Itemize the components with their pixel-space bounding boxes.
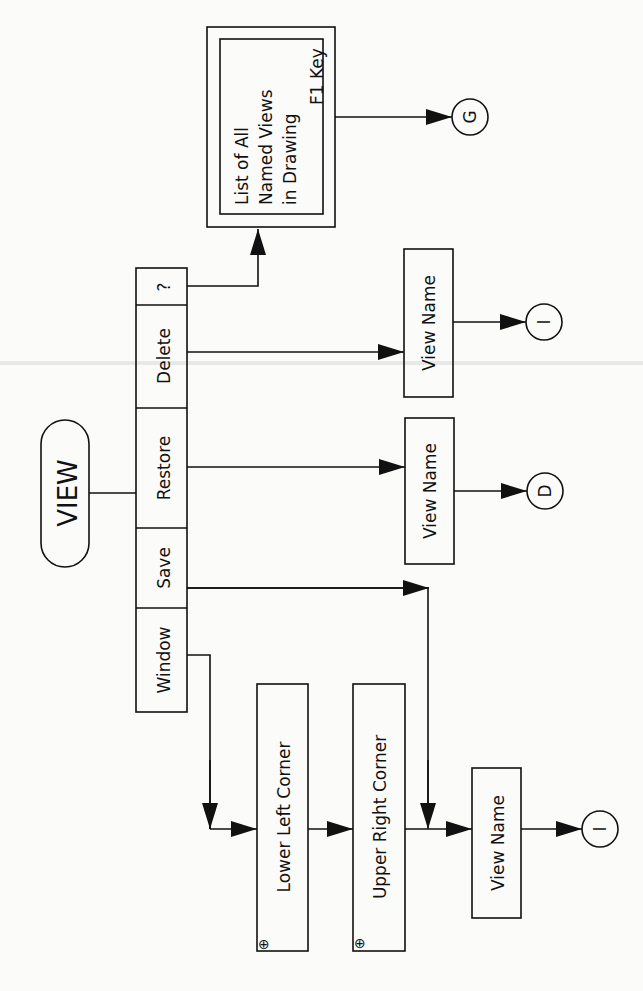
point-marker-icon: ⊕	[258, 936, 270, 952]
list-line-2: Named Views	[256, 89, 276, 205]
connector-g: G	[452, 99, 488, 135]
connector-i-delete: I	[526, 304, 562, 340]
connector-i-delete-label: I	[534, 319, 554, 324]
upper-right-corner-label: Upper Right Corner	[370, 735, 390, 899]
menu-column: Window Save Restore Delete ?	[136, 268, 187, 712]
start-label: VIEW	[53, 459, 83, 527]
connector-g-label: G	[460, 110, 480, 123]
menu-item-restore[interactable]: Restore	[154, 436, 174, 501]
edge-window-path	[187, 655, 210, 829]
lower-left-corner-box: Lower Left Corner ⊕	[257, 684, 308, 952]
connector-i-window-label: I	[590, 826, 610, 831]
menu-item-restore-label: Restore	[154, 436, 174, 501]
delete-view-name-box: View Name	[404, 249, 453, 397]
flowchart: VIEW Window Save Restore Delete ?	[0, 0, 643, 991]
menu-item-save[interactable]: Save	[154, 547, 174, 589]
delete-view-name-label: View Name	[419, 275, 439, 371]
lower-left-corner-label: Lower Left Corner	[274, 742, 294, 893]
menu-item-query[interactable]: ?	[154, 282, 174, 291]
start-terminator-view: VIEW	[41, 420, 89, 567]
restore-view-name-label: View Name	[420, 443, 440, 539]
upper-right-corner-box: Upper Right Corner ⊕	[353, 684, 405, 951]
menu-item-delete-label: Delete	[154, 328, 174, 384]
window-view-name-box: View Name	[472, 768, 521, 918]
restore-view-name-box: View Name	[405, 418, 454, 564]
connector-i-window: I	[582, 811, 618, 847]
list-line-3: in Drawing	[280, 113, 300, 205]
menu-item-window[interactable]: Window	[154, 626, 174, 693]
list-line-1: List of All	[232, 127, 252, 205]
menu-item-delete[interactable]: Delete	[154, 328, 174, 384]
menu-item-query-label: ?	[154, 282, 174, 291]
point-marker-icon: ⊕	[354, 935, 366, 951]
connector-d: D	[527, 473, 563, 509]
connector-d-label: D	[535, 484, 555, 497]
menu-item-save-label: Save	[154, 547, 174, 589]
window-view-name-label: View Name	[488, 795, 508, 891]
diagram-canvas: VIEW Window Save Restore Delete ?	[0, 0, 643, 991]
menu-item-window-label: Window	[154, 626, 174, 693]
edge-query-to-list	[187, 229, 258, 286]
f1-key-label: F1 Key	[307, 48, 327, 105]
